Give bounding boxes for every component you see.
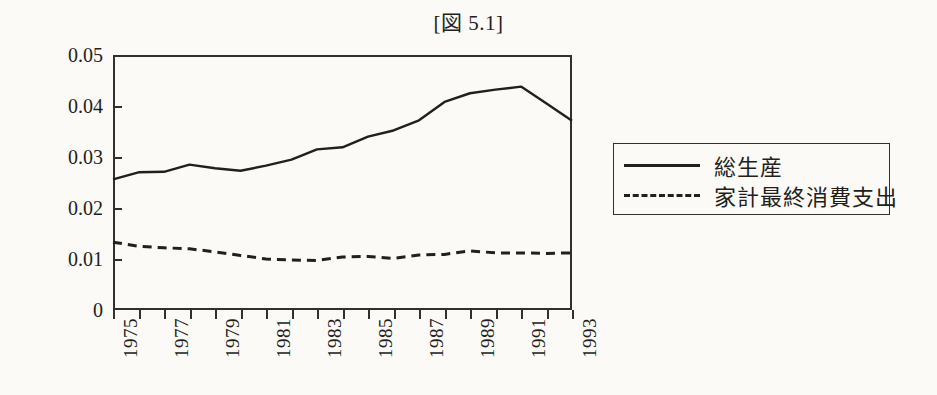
x-axis-tick-mark: [521, 310, 523, 319]
legend: 総生産 家計最終消費支出: [613, 143, 890, 215]
y-axis-tick-label: 0.01: [68, 248, 103, 271]
y-axis-tick-label: 0: [93, 299, 103, 322]
x-axis-tick-mark: [113, 310, 115, 319]
figure-title: [図 5.1]: [0, 6, 937, 36]
x-axis-tick-mark: [266, 310, 268, 319]
legend-item-1: 家計最終消費支出: [624, 180, 879, 210]
x-axis-tick-label: 1985: [375, 318, 397, 358]
legend-label-0: 総生産: [714, 149, 783, 181]
y-axis-tick-label: 0.05: [68, 44, 103, 67]
x-axis-tick-label: 1979: [222, 318, 244, 358]
series-lines: [113, 55, 572, 310]
x-axis-tick-mark: [368, 310, 370, 319]
x-axis-tick-label: 1987: [426, 318, 448, 358]
x-axis-tick-mark: [164, 310, 166, 319]
x-axis-tick-label: 1975: [120, 318, 142, 358]
x-axis-tick-label: 1991: [528, 318, 550, 358]
figure-container: [図 5.1] 0.050.040.030.020.010 1975197719…: [0, 0, 937, 395]
plot-area: [113, 55, 572, 310]
series-line-1: [113, 242, 572, 260]
x-axis-tick-mark: [215, 310, 217, 319]
x-axis-tick-mark: [470, 310, 472, 319]
x-axis-tick-label: 1989: [477, 318, 499, 358]
y-axis-label-group: 0.050.040.030.020.010: [35, 0, 103, 395]
x-axis-tick-mark: [317, 310, 319, 319]
series-line-0: [113, 87, 572, 180]
x-axis-tick-label: 1981: [273, 318, 295, 358]
x-axis-tick-mark: [419, 310, 421, 319]
y-axis-tick-label: 0.04: [68, 95, 103, 118]
y-axis-tick-label: 0.02: [68, 197, 103, 220]
legend-swatch-dashed-line-icon: [624, 194, 700, 197]
x-axis-tick-label: 1983: [324, 318, 346, 358]
x-axis-tick-label: 1977: [171, 318, 193, 358]
legend-item-0: 総生産: [624, 150, 879, 180]
y-axis-tick-label: 0.03: [68, 146, 103, 169]
legend-label-1: 家計最終消費支出: [714, 179, 898, 211]
x-axis-tick-mark: [572, 310, 574, 319]
legend-swatch-solid-line-icon: [624, 164, 700, 167]
x-axis-tick-label: 1993: [579, 318, 601, 358]
